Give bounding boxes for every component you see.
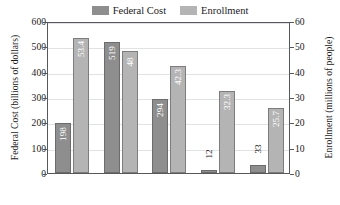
bar-value-label: 48 [125,58,135,67]
bar-enrollment[interactable]: 48 [122,51,138,173]
y-axis-right-tick-label: 40 [295,68,317,78]
bar-value-label: 32.3 [222,94,232,110]
bar-federal-cost[interactable]: 33 [250,165,266,173]
bar-federal-cost[interactable]: 12 [201,170,217,173]
y-axis-right-tick-label: 0 [295,169,317,179]
bar-enrollment[interactable]: 42.3 [170,66,186,173]
bar-group: 51948 [97,23,146,173]
bar-enrollment[interactable]: 25.7 [268,108,284,173]
tick-mark [290,123,294,124]
chart-figure: Federal Cost Enrollment Federal Cost (bi… [0,0,340,205]
tick-mark [43,73,47,74]
y-axis-right-tick-label: 20 [295,118,317,128]
tick-mark [290,98,294,99]
legend-swatch-federal-cost [92,6,109,15]
bar-enrollment[interactable]: 53.4 [73,38,89,173]
legend-label-federal-cost: Federal Cost [113,5,166,16]
bar-group: 29442.3 [145,23,194,173]
y-axis-right-tick-label: 10 [295,144,317,154]
bar-federal-cost[interactable]: 198 [55,123,71,173]
tick-mark [43,123,47,124]
y-axis-right-tick-label: 30 [295,93,317,103]
x-axis-labels [47,176,290,204]
tick-mark [43,22,47,23]
bar-value-label: 12 [204,149,214,158]
bar-group: 1232.3 [194,23,243,173]
bar-group: 3325.7 [242,23,291,173]
bar-enrollment[interactable]: 32.3 [219,91,235,173]
tick-mark [290,73,294,74]
chart-legend: Federal Cost Enrollment [0,2,340,18]
y-axis-left-title: Federal Cost (billions of dollars) [9,18,20,178]
tick-mark [43,47,47,48]
tick-mark [290,22,294,23]
y-axis-right-tick-label: 50 [295,42,317,52]
y-axis-right-tick-label: 60 [295,17,317,27]
legend-item-enrollment: Enrollment [180,5,248,16]
legend-item-federal-cost: Federal Cost [92,5,166,16]
bar-federal-cost[interactable]: 294 [152,99,168,173]
bar-value-label: 53.4 [76,41,86,57]
plot-area: 19853.45194829442.31232.33325.7 [47,22,290,174]
bar-value-label: 198 [58,127,68,141]
bar-value-label: 33 [253,144,263,153]
tick-mark [43,149,47,150]
legend-swatch-enrollment [180,6,197,15]
bar-group: 19853.4 [48,23,97,173]
y-axis-right-title: Enrollment (millions of people) [323,18,334,178]
legend-label-enrollment: Enrollment [201,5,248,16]
tick-mark [43,174,47,175]
bar-value-label: 25.7 [271,111,281,127]
bar-value-label: 294 [155,103,165,117]
tick-mark [290,149,294,150]
bar-value-label: 519 [107,46,117,60]
bar-series-container: 19853.45194829442.31232.33325.7 [48,23,289,173]
tick-mark [290,174,294,175]
bar-federal-cost[interactable]: 519 [104,42,120,173]
tick-mark [43,98,47,99]
tick-mark [290,47,294,48]
bar-value-label: 42.3 [173,69,183,85]
